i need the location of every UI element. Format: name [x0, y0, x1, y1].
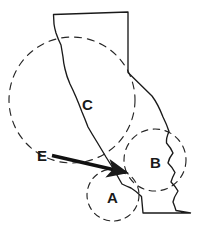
pointer-arrow-e — [52, 156, 126, 173]
california-state-outline — [54, 12, 191, 213]
region-label-b: B — [150, 155, 161, 170]
region-label-a: A — [107, 190, 118, 205]
diagram-canvas: A B C E — [0, 0, 221, 239]
region-label-c: C — [82, 97, 93, 112]
region-circle-c — [9, 37, 135, 163]
region-label-e: E — [37, 148, 47, 163]
